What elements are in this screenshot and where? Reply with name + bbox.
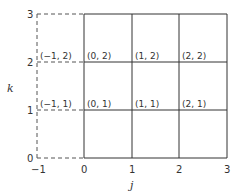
point-labels-row-1: (−1, 1) (0, 1) (1, 1) (2, 1) — [40, 99, 206, 109]
point-label: (1, 2) — [135, 51, 159, 61]
y-axis-ticks: 3 2 1 0 — [27, 9, 33, 164]
y-axis-title: k — [7, 82, 14, 95]
x-tick-neg1: −1 — [31, 164, 46, 175]
point-label: (2, 2) — [182, 51, 206, 61]
point-label: (0, 2) — [87, 51, 111, 61]
x-tick-0: 0 — [81, 164, 87, 175]
y-tick-0: 0 — [27, 153, 33, 164]
point-label: (−1, 2) — [40, 51, 72, 61]
y-tick-3: 3 — [27, 9, 33, 20]
dashed-region — [37, 14, 84, 158]
point-labels-row-2: (−1, 2) (0, 2) (1, 2) (2, 2) — [40, 51, 206, 61]
solid-grid — [84, 14, 227, 158]
point-label: (2, 1) — [182, 99, 206, 109]
lattice-diagram: 3 2 1 0 −1 0 1 2 3 k j (−1, 2) (0, 2) (1… — [0, 0, 237, 196]
x-axis-title: j — [127, 179, 134, 192]
point-label: (0, 1) — [87, 99, 111, 109]
point-label: (1, 1) — [135, 99, 159, 109]
point-label: (−1, 1) — [40, 99, 72, 109]
x-tick-3: 3 — [224, 164, 230, 175]
x-axis-ticks: −1 0 1 2 3 — [31, 164, 230, 175]
y-tick-1: 1 — [27, 105, 33, 116]
x-tick-1: 1 — [129, 164, 135, 175]
y-tick-2: 2 — [27, 57, 33, 68]
x-tick-2: 2 — [176, 164, 182, 175]
